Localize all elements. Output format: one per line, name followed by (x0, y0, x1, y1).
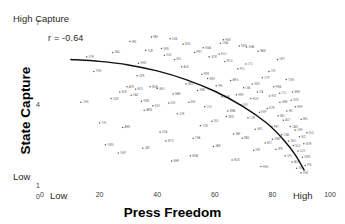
data-point (281, 134, 283, 136)
data-point-label: CHN (83, 100, 89, 104)
data-point-label: TKM (96, 69, 101, 73)
data-point (292, 91, 294, 93)
data-point-label: TJK (102, 121, 107, 125)
data-point-label: HRV (238, 93, 244, 97)
data-point (264, 142, 266, 144)
data-point-label: ZAF (235, 132, 240, 136)
data-point-label: CRI (271, 69, 276, 73)
data-point-label: SVN (254, 82, 259, 86)
data-point (215, 85, 217, 87)
data-point (93, 71, 95, 73)
data-point (203, 47, 205, 49)
data-point-label: ESP (297, 105, 302, 109)
data-point-label: QAT (145, 146, 151, 150)
data-point (303, 143, 305, 145)
data-point-label: HKG (263, 165, 269, 169)
data-point (99, 122, 101, 124)
data-point (110, 98, 112, 100)
data-point (172, 93, 174, 95)
data-point-label: CHL (287, 154, 293, 158)
data-point (230, 80, 232, 82)
data-point (152, 105, 154, 107)
data-point (80, 101, 82, 103)
data-points-group: CHNTJKUZBBLRAZEKAZRUSUKRVNMARMTURMDAEGYG… (80, 35, 314, 175)
data-point (226, 116, 228, 118)
data-point-label: TUR (148, 49, 153, 53)
data-point-label: LKA (172, 37, 177, 41)
data-point (218, 53, 220, 55)
data-point-label: JOR (179, 112, 184, 116)
data-point (207, 78, 209, 80)
data-point (220, 42, 222, 44)
data-point-label: GRC (257, 127, 263, 131)
data-point-label: GHA (248, 45, 254, 49)
data-point (237, 68, 239, 70)
data-point (251, 83, 253, 85)
data-point-label: LVA (246, 86, 251, 90)
data-point-label: NGA (205, 46, 211, 50)
data-point (272, 139, 274, 141)
data-point (277, 59, 279, 61)
data-point-label: UKR (139, 74, 145, 78)
data-point-label: RUS (138, 87, 144, 91)
data-point-label: SVN (293, 98, 298, 102)
data-point (275, 148, 277, 150)
data-point-label: KGZ (166, 53, 172, 57)
data-point (262, 77, 264, 79)
data-point (294, 129, 296, 131)
data-point-label: EST (271, 94, 276, 98)
data-point (145, 50, 147, 52)
data-point-label: THA (195, 136, 200, 140)
data-point (284, 155, 286, 157)
data-point-label: GEO (159, 87, 165, 91)
data-point (208, 56, 210, 58)
data-point (290, 126, 292, 128)
data-point-label: SRB (199, 88, 205, 92)
data-point-label: ROU (227, 59, 233, 63)
data-point-label: NOR (306, 142, 312, 146)
data-point (143, 110, 145, 112)
data-point-label: KHM (140, 61, 146, 65)
data-point (295, 106, 297, 108)
data-point-label: BWA (192, 154, 198, 158)
data-point-label: ITA (259, 90, 263, 94)
data-point-label: ARE (125, 125, 131, 129)
data-point-label: MYS (168, 139, 174, 143)
data-point-label: CZE (250, 116, 255, 120)
scatter-chart-figure: High Capture Low r = -0.64 State Capture… (0, 0, 345, 224)
data-point-label: ECU (221, 52, 227, 56)
data-point (204, 106, 206, 108)
data-point-label: URY (279, 57, 285, 61)
data-point (159, 131, 161, 133)
data-point (304, 165, 306, 167)
data-point (151, 36, 153, 38)
data-point (277, 115, 279, 117)
data-point (231, 159, 233, 161)
data-point-label: BGD (185, 42, 191, 46)
data-point (302, 157, 304, 159)
data-point (257, 51, 259, 53)
data-point-label: BHR (174, 159, 180, 163)
data-point (243, 87, 245, 89)
data-point (201, 73, 203, 75)
data-point (293, 145, 295, 147)
data-point-label: NLD (295, 144, 300, 148)
data-point-label: CYP (264, 76, 270, 80)
data-point (250, 98, 252, 100)
data-point-label: FIN (307, 163, 311, 167)
data-point-label: LTU (248, 62, 253, 66)
data-point (135, 89, 137, 91)
data-point-label: HND (225, 38, 231, 42)
data-point-label: SEN (228, 115, 233, 119)
data-point (306, 132, 308, 134)
data-point-label: CAN (292, 125, 298, 129)
data-point-label: KOR (269, 106, 275, 110)
data-point (182, 44, 184, 46)
data-point-label: BOL (176, 57, 182, 61)
data-point-label: JAM (215, 144, 220, 148)
data-point-label: SWE (304, 155, 310, 159)
data-point-label: SYR (89, 55, 94, 59)
data-point-label: ISR (256, 148, 260, 152)
data-point (161, 48, 163, 50)
data-point-label: SAU (114, 50, 119, 54)
